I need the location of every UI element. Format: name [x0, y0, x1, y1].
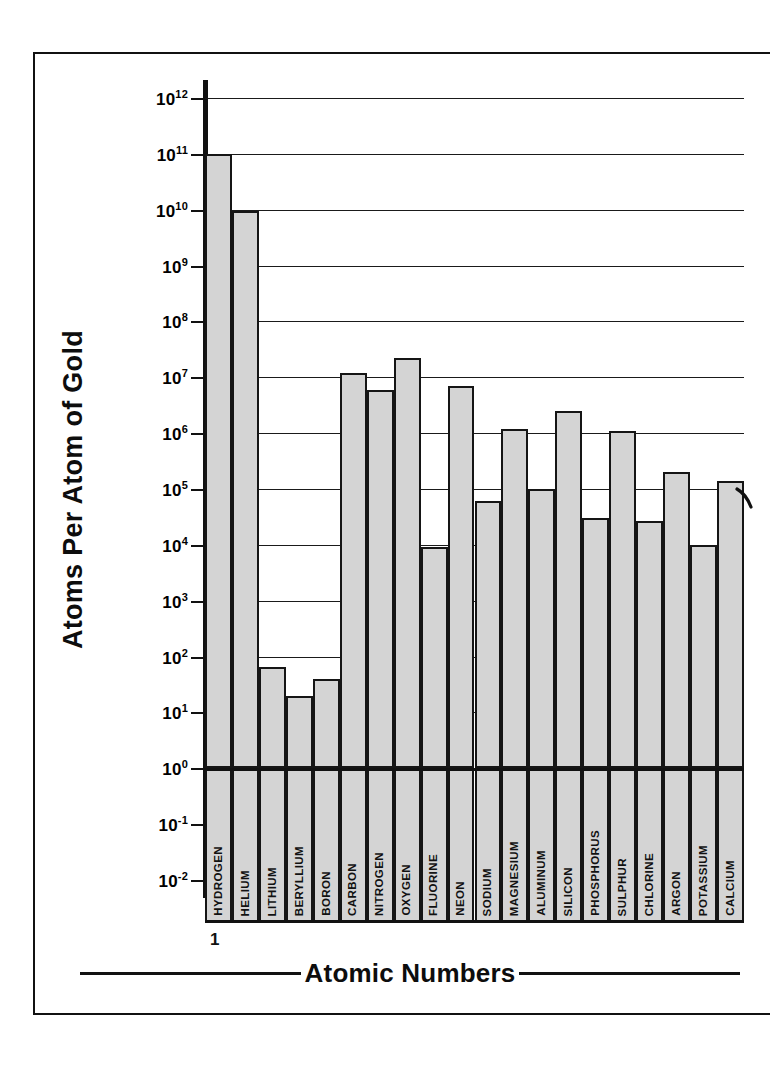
category-label-cell: BERYLLIUM: [286, 771, 313, 920]
category-label: LITHIUM: [267, 867, 279, 916]
y-tick-label: 1011: [157, 145, 188, 164]
y-tick-label: 10-1: [159, 815, 189, 834]
category-label-cell: BORON: [313, 771, 340, 920]
category-label: CALCIUM: [725, 860, 737, 916]
bar: [717, 481, 744, 768]
y-tick-mark: [191, 266, 205, 268]
gridline: [205, 98, 744, 99]
scan-right-edge: [764, 54, 770, 1013]
x-axis-rule-right: [519, 972, 740, 975]
y-tick-label: 101: [162, 703, 188, 722]
category-label-cell: FLUORINE: [421, 771, 448, 920]
x-axis-title-group: Atomic Numbers: [80, 955, 740, 991]
category-label: HELIUM: [240, 870, 252, 916]
gridline: [205, 321, 744, 322]
category-label: OXYGEN: [401, 864, 413, 916]
category-label: POTASSIUM: [698, 845, 710, 916]
y-tick-mark: [191, 154, 205, 156]
category-label: CARBON: [347, 863, 359, 916]
gridline: [205, 377, 744, 378]
category-label: MAGNESIUM: [509, 841, 521, 916]
y-tick-label: 102: [162, 648, 188, 667]
y-tick-label: 107: [162, 368, 188, 387]
category-label-cell: CALCIUM: [717, 771, 744, 920]
category-label: NEON: [455, 881, 467, 916]
bar: [394, 358, 421, 768]
category-label-cell: HELIUM: [232, 771, 259, 920]
category-label: SODIUM: [482, 868, 494, 916]
bar: [421, 547, 448, 768]
y-tick-label: 10-2: [159, 871, 189, 890]
bar: [501, 429, 528, 769]
category-label-cell: LITHIUM: [259, 771, 286, 920]
category-label: SULPHUR: [617, 858, 629, 916]
y-tick-mark: [191, 712, 205, 714]
category-label: NITROGEN: [374, 852, 386, 916]
y-tick-mark: [191, 433, 205, 435]
y-tick-label: 106: [162, 424, 188, 443]
y-tick-mark: [191, 98, 205, 100]
bar: [636, 521, 663, 769]
y-tick-label: 100: [162, 759, 188, 778]
category-label-cell: NEON: [448, 771, 475, 920]
y-tick-mark: [191, 377, 205, 379]
gridline: [205, 433, 744, 434]
category-label-cell: NITROGEN: [367, 771, 394, 920]
bar: [232, 211, 259, 768]
category-label-cell: ARGON: [663, 771, 690, 920]
bar: [286, 696, 313, 769]
y-tick-mark: [191, 321, 205, 323]
bar: [475, 501, 502, 768]
category-label: CHLORINE: [644, 853, 656, 916]
bar: [555, 411, 582, 768]
gridline: [205, 210, 744, 211]
bar: [609, 431, 636, 768]
gridline: [205, 154, 744, 155]
bar: [448, 386, 475, 768]
category-label-cell: ALUMINUM: [528, 771, 555, 920]
bar: [663, 472, 690, 768]
y-tick-label: 104: [162, 536, 188, 555]
category-label: HYDROGEN: [213, 846, 225, 916]
bar: [259, 667, 286, 768]
scan-ink-mark: [735, 487, 753, 509]
category-label-cell: MAGNESIUM: [501, 771, 528, 920]
gridline: [205, 266, 744, 267]
x-axis-start-number: 1: [210, 930, 219, 950]
category-label-cell: CARBON: [340, 771, 367, 920]
y-tick-label: 108: [162, 312, 188, 331]
y-tick-label: 1012: [156, 89, 188, 108]
y-tick-label: 105: [162, 480, 188, 499]
category-label-cell: SULPHUR: [609, 771, 636, 920]
bar: [690, 545, 717, 768]
bar: [528, 489, 555, 768]
y-tick-mark: [191, 601, 205, 603]
y-tick-mark: [191, 880, 205, 882]
category-label-cell: HYDROGEN: [205, 771, 232, 920]
category-label-band: HYDROGENHELIUMLITHIUMBERYLLIUMBORONCARBO…: [205, 768, 744, 920]
bar: [313, 679, 340, 768]
category-label: BORON: [321, 871, 333, 916]
y-tick-mark: [191, 824, 205, 826]
y-tick-mark: [191, 657, 205, 659]
plot-area: [205, 98, 744, 880]
y-tick-label: 1010: [156, 201, 188, 220]
y-tick-mark: [191, 545, 205, 547]
category-label-cell: PHOSPHORUS: [582, 771, 609, 920]
x-axis-line: [205, 920, 744, 923]
y-tick-label: 109: [162, 257, 188, 276]
category-label-cell: SODIUM: [475, 771, 502, 920]
y-tick-mark: [191, 210, 205, 212]
category-label-cell: POTASSIUM: [690, 771, 717, 920]
category-label: ARGON: [671, 871, 683, 916]
category-label: BERYLLIUM: [294, 846, 306, 916]
category-label-cell: CHLORINE: [636, 771, 663, 920]
bar: [340, 373, 367, 768]
category-label: PHOSPHORUS: [590, 830, 602, 916]
bar: [367, 390, 394, 769]
category-label-cell: OXYGEN: [394, 771, 421, 920]
bar: [582, 518, 609, 768]
y-tick-mark: [191, 489, 205, 491]
category-label: FLUORINE: [428, 854, 440, 916]
y-axis-tick-labels: 1012101110101091081071061051041031021011…: [0, 0, 188, 1069]
